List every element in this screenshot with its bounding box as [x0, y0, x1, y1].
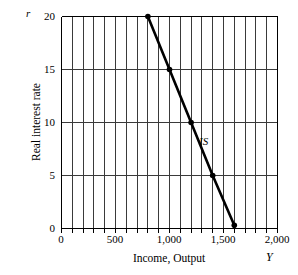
y-tick-label-20: 20 — [33, 11, 55, 22]
x-tick-label-2000: 2,000 — [254, 234, 298, 245]
x-axis-title: Income, Output — [61, 252, 277, 264]
y-axis-variable-symbol: r — [26, 8, 30, 19]
x-tick-label-500: 500 — [92, 234, 138, 245]
y-tick-label-10: 10 — [33, 117, 55, 128]
y-tick-label-0: 0 — [33, 223, 55, 234]
x-axis-ticks — [62, 229, 278, 233]
is-curve-label: IS — [199, 136, 209, 147]
y-tick-label-15: 15 — [33, 64, 55, 75]
x-axis-variable-symbol: Y — [266, 251, 273, 263]
is-curve-chart: r Real interest rate 20 15 10 5 0 0 500 … — [0, 0, 298, 275]
y-tick-label-5: 5 — [33, 170, 55, 181]
x-tick-label-0: 0 — [38, 234, 84, 245]
x-tick-label-1500: 1,500 — [200, 234, 246, 245]
x-tick-label-1000: 1,000 — [146, 234, 192, 245]
